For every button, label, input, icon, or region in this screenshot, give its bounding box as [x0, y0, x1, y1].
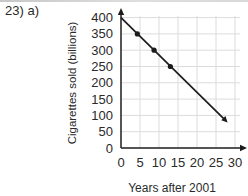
svg-text:0: 0 [117, 155, 124, 170]
svg-text:30: 30 [228, 155, 242, 170]
svg-text:400: 400 [91, 10, 113, 25]
svg-text:0: 0 [106, 141, 113, 156]
svg-text:15: 15 [171, 155, 185, 170]
svg-text:300: 300 [91, 43, 113, 58]
svg-text:20: 20 [190, 155, 204, 170]
svg-text:50: 50 [99, 124, 113, 139]
svg-text:10: 10 [152, 155, 166, 170]
svg-text:5: 5 [136, 155, 143, 170]
svg-text:100: 100 [91, 108, 113, 123]
svg-text:350: 350 [91, 26, 113, 41]
svg-text:250: 250 [91, 59, 113, 74]
worksheet-scan: 23) a) Cigarettes sold (billions) Years … [0, 0, 248, 196]
svg-text:150: 150 [91, 92, 113, 107]
chart-svg: 050100150200250300350400051015202530 [0, 0, 248, 196]
svg-text:200: 200 [91, 75, 113, 90]
svg-text:25: 25 [209, 155, 223, 170]
